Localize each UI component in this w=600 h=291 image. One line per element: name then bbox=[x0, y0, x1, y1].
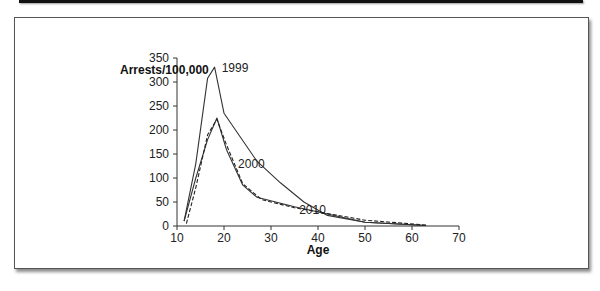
x-tick-label: 50 bbox=[358, 231, 372, 245]
x-tick-label: 10 bbox=[170, 231, 184, 245]
series-label-2000: 2000 bbox=[238, 157, 265, 171]
series-label-1999: 1999 bbox=[222, 61, 249, 75]
y-tick-label: 0 bbox=[162, 219, 169, 233]
x-tick-label: 60 bbox=[405, 231, 419, 245]
x-tick-label: 70 bbox=[452, 231, 466, 245]
y-axis-title: Arrests/100,000 bbox=[120, 63, 209, 77]
y-tick-label: 100 bbox=[149, 171, 169, 185]
y-tick-label: 150 bbox=[149, 147, 169, 161]
x-tick-label: 20 bbox=[217, 231, 231, 245]
series-lines bbox=[184, 67, 426, 225]
y-tick-label: 250 bbox=[149, 99, 169, 113]
x-axis-title: Age bbox=[307, 243, 330, 257]
y-tick-label: 200 bbox=[149, 123, 169, 137]
series-line-1999 bbox=[184, 67, 426, 225]
line-chart: 05010015020025030035010203040506070 1999… bbox=[0, 0, 600, 291]
y-tick-label: 300 bbox=[149, 75, 169, 89]
series-labels: 199920002010 bbox=[222, 61, 327, 217]
x-tick-label: 30 bbox=[264, 231, 278, 245]
y-tick-label: 50 bbox=[156, 195, 170, 209]
series-label-2010: 2010 bbox=[299, 203, 326, 217]
